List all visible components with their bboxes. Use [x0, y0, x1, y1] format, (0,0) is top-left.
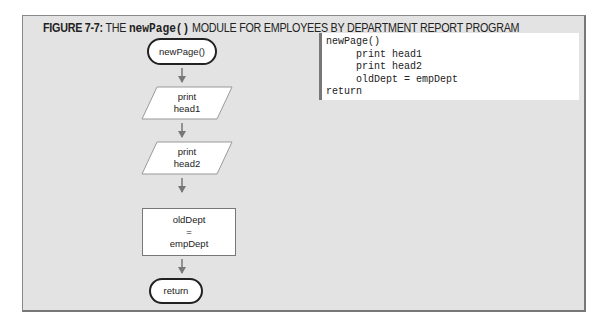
- pseudocode-box: newPage() print head1 print head2 oldDep…: [319, 33, 579, 100]
- proc-line2: =: [186, 226, 192, 237]
- io2-line1: print: [178, 146, 196, 157]
- proc-line3: empDept: [170, 238, 209, 249]
- proc-line1: oldDept: [173, 214, 206, 225]
- arrow-down-icon: [177, 259, 187, 275]
- title-code: newPage(): [129, 21, 189, 36]
- start-label: newPage(): [159, 46, 205, 58]
- code-line: oldDept = empDept: [326, 74, 579, 87]
- code-line: print head1: [326, 49, 579, 62]
- io2-line2: head2: [174, 158, 200, 169]
- title-text: THE: [103, 21, 129, 35]
- figure-frame: FIGURE 7-7: THE newPage() MODULE FOR EMP…: [22, 15, 586, 312]
- arrow-down-icon: [177, 123, 187, 139]
- print-head1-io: printhead1: [141, 86, 233, 120]
- arrow-down-icon: [177, 178, 187, 194]
- code-line: return: [326, 86, 579, 99]
- return-terminal: return: [149, 278, 203, 304]
- print-head2-io: printhead2: [141, 141, 233, 175]
- arrow-down-icon: [177, 68, 187, 84]
- figure-label: FIGURE 7-7:: [43, 21, 103, 35]
- io1-line2: head1: [174, 103, 200, 114]
- io1-line1: print: [178, 91, 196, 102]
- code-line: newPage(): [326, 36, 579, 49]
- return-label: return: [164, 285, 189, 297]
- start-terminal: newPage(): [147, 38, 217, 65]
- assign-process-box: oldDept=empDept: [142, 208, 236, 256]
- code-line: print head2: [326, 61, 579, 74]
